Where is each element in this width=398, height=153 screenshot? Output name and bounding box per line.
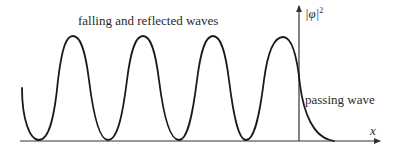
wave-diagram: falling and reflected waves passing wave… — [0, 0, 398, 153]
transmitted-wave-label: passing wave — [305, 92, 375, 107]
y-axis-label: |φ|2 — [305, 6, 323, 21]
y-axis-label-text: |φ| — [305, 6, 319, 21]
y-axis-label-sup: 2 — [319, 6, 323, 15]
incident-wave-label: falling and reflected waves — [78, 13, 218, 28]
x-axis-label: x — [369, 123, 376, 138]
wave-curve — [22, 36, 334, 141]
